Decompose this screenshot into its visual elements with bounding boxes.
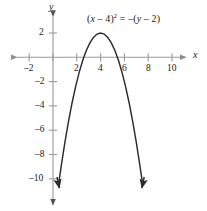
y-axis-label: y bbox=[49, 2, 53, 12]
y-tick-label--10: –10 bbox=[29, 174, 43, 184]
y-tick-label--4: –4 bbox=[35, 101, 45, 111]
x-axis-label: x bbox=[193, 50, 197, 60]
x-tick-label-2: 2 bbox=[74, 64, 79, 74]
x-tick-label--2: –2 bbox=[24, 64, 34, 74]
x-tick-label-10: 10 bbox=[167, 64, 177, 74]
curve-end-arrows bbox=[57, 177, 144, 188]
x-axis bbox=[17, 53, 186, 61]
y-axis bbox=[49, 17, 57, 206]
y-tick-label--8: –8 bbox=[35, 150, 45, 160]
equation-equals: = –( bbox=[117, 13, 136, 24]
y-tick-label--6: –6 bbox=[35, 125, 45, 135]
equation-minus-k: – 2) bbox=[141, 13, 160, 24]
equation-minus-h: – 4) bbox=[95, 13, 114, 24]
y-tick-label-2: 2 bbox=[39, 28, 44, 38]
parabola-graph-figure: y x (x – 4)2 = –(y – 2) –2 2 4 6 8 10 2 … bbox=[0, 0, 207, 211]
y-tick-label--2: –2 bbox=[35, 77, 45, 87]
x-tick-label-6: 6 bbox=[122, 64, 127, 74]
equation-annotation: (x – 4)2 = –(y – 2) bbox=[87, 14, 160, 24]
x-tick-label-4: 4 bbox=[98, 64, 103, 74]
x-tick-label-8: 8 bbox=[146, 64, 151, 74]
